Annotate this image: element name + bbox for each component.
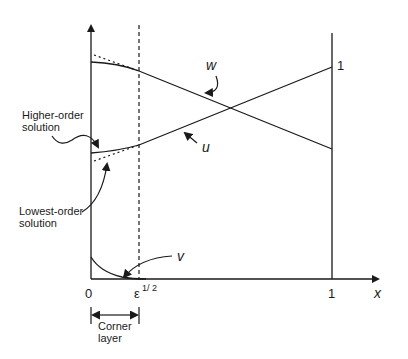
order-annotations: Higher-order solution Lowest-order solut… <box>19 109 107 229</box>
arrow-u-pointer <box>185 133 197 143</box>
curve-v <box>91 257 146 279</box>
arrow-lowest-order-pointer <box>82 164 107 212</box>
tick-label-zero: 0 <box>85 286 92 301</box>
x-axis-label: x <box>373 285 382 301</box>
arrow-v-pointer <box>124 256 172 277</box>
curve-labels: w u v <box>124 57 218 277</box>
boundary-value-label: 1 <box>337 58 344 73</box>
label-w: w <box>206 57 217 73</box>
corner-layer-label-line1: Corner <box>98 320 132 332</box>
label-u: u <box>202 139 210 155</box>
lowest-order-label-line2: solution <box>19 217 57 229</box>
arrow-w-pointer <box>206 76 218 93</box>
corner-layer-label-line2: layer <box>98 332 122 344</box>
tick-label-epsilon-exponent: 1/ 2 <box>142 283 157 293</box>
tick-label-one: 1 <box>328 286 335 301</box>
curve-u-lowest-order <box>94 145 139 161</box>
axes <box>91 25 378 279</box>
curves <box>91 55 332 279</box>
lowest-order-label-line1: Lowest-order <box>19 205 84 217</box>
higher-order-label-line2: solution <box>22 121 60 133</box>
curve-u-higher-order <box>91 67 332 153</box>
corner-layer-indicator: Corner layer <box>91 307 139 344</box>
curve-w-higher-order <box>91 62 332 149</box>
tick-label-epsilon: ε <box>134 286 140 301</box>
diagram-canvas: w u v Higher-order solution Lowest-order… <box>0 0 408 359</box>
label-v: v <box>177 248 185 264</box>
higher-order-label-line1: Higher-order <box>22 109 84 121</box>
tick-labels: 0 ε 1/ 2 1 x 1 <box>85 58 382 301</box>
